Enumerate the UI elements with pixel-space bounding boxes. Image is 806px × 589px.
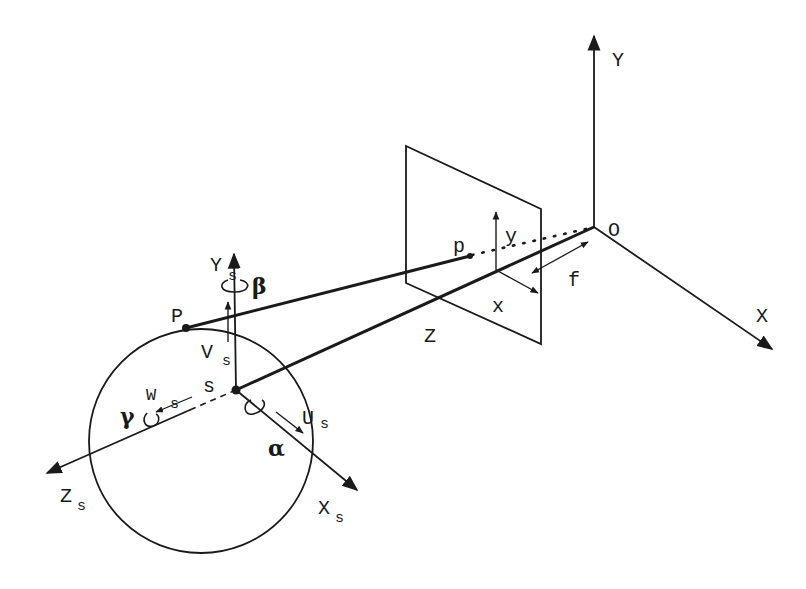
origin-label: O bbox=[608, 219, 620, 242]
velocity-u-arrow bbox=[276, 412, 303, 433]
velocity-w-subscript: s bbox=[170, 396, 179, 413]
world-y-label: Y bbox=[612, 49, 624, 72]
focal-label: f bbox=[568, 269, 580, 292]
xs-label: X bbox=[318, 497, 330, 520]
diagram-canvas: O Y X y x f p Z P s Y s X s Z s V s U s … bbox=[0, 0, 806, 589]
gamma-label: γ bbox=[120, 403, 135, 429]
world-x-label: X bbox=[756, 305, 768, 328]
velocity-w-label: W bbox=[146, 386, 157, 405]
xs-subscript: s bbox=[335, 510, 344, 527]
rotation-gamma-icon bbox=[144, 413, 159, 426]
image-plane bbox=[406, 146, 541, 344]
image-point-label: p bbox=[453, 235, 465, 258]
ys-label: Y bbox=[210, 254, 222, 277]
beta-label: β bbox=[252, 273, 267, 299]
world-axes bbox=[594, 36, 772, 349]
image-point-dot bbox=[467, 253, 473, 259]
ys-subscript: s bbox=[228, 268, 237, 285]
velocity-v-subscript: s bbox=[222, 353, 231, 370]
velocity-v-label: V bbox=[201, 341, 213, 364]
velocity-u-subscript: s bbox=[320, 416, 329, 433]
surface-point-label: P bbox=[171, 305, 183, 328]
projection-diagram: O Y X y x f p Z P s Y s X s Z s V s U s … bbox=[0, 0, 806, 589]
optical-axis-label: Z bbox=[424, 325, 436, 348]
sphere-xs-axis bbox=[236, 390, 357, 490]
zs-subscript: s bbox=[77, 498, 86, 515]
world-x-axis bbox=[594, 227, 772, 349]
image-x-axis-arrow bbox=[496, 270, 538, 293]
surface-point-dot bbox=[182, 324, 190, 332]
velocity-u-label: U bbox=[302, 407, 314, 430]
image-x-label: x bbox=[492, 295, 504, 318]
sphere-center-label: s bbox=[203, 375, 215, 398]
image-y-label: y bbox=[505, 225, 517, 248]
zs-label: Z bbox=[60, 485, 72, 508]
alpha-label: α bbox=[268, 435, 285, 461]
